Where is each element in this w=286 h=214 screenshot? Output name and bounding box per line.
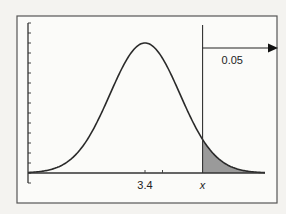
x-tick-label-mean: 3.4 <box>137 179 152 191</box>
x-tick-label-x: x <box>199 179 206 191</box>
normal-distribution-chart: 0.05 3.4 x <box>0 0 286 214</box>
annotation-area-label: 0.05 <box>222 54 243 66</box>
chart-frame <box>17 16 277 203</box>
